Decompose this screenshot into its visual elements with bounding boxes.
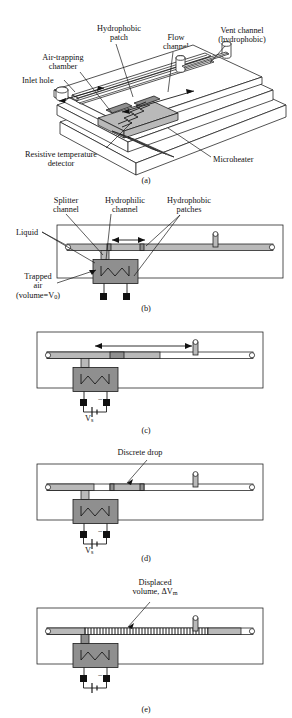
air-trapping-chamber-b: [93, 260, 138, 284]
panel-c: L + − Vs: [0, 320, 292, 442]
hydrophobic-patch-right-b: [140, 244, 144, 251]
electrode-pad-right-b: [123, 293, 130, 300]
device-frame-d: [37, 464, 263, 520]
panel-d-drawing: [0, 442, 292, 572]
vent-post-top-d: [193, 472, 198, 477]
channel-end-left-d: [45, 485, 50, 490]
channel-end-right-e: [249, 629, 254, 634]
electrode-pad-left-b: [100, 293, 107, 300]
device-frame-e: [37, 608, 263, 664]
panel-b: Splitter channel Hydrophilic channel Hyd…: [0, 190, 292, 320]
splitter-channel-b: [101, 251, 109, 260]
panel-e: Displaced volume, ΔVm + −: [0, 572, 292, 718]
vent-post-top-e: [193, 616, 198, 621]
air-trapping-chamber-e: [73, 644, 118, 668]
discrete-drop-d: [110, 484, 144, 491]
panel-a-drawing: [0, 0, 292, 190]
liquid-column-d: [47, 484, 94, 491]
splitter-channel-c: [81, 359, 89, 368]
channel-end-right-c: [249, 353, 254, 358]
splitter-channel-d: [81, 491, 89, 500]
panel-b-drawing: [0, 190, 292, 320]
caption-panel-b: (b): [0, 304, 292, 313]
channel-end-left-e: [45, 629, 50, 634]
channel-end-right-d: [249, 485, 254, 490]
electrode-pad-left-e: [80, 675, 87, 682]
meniscus-patch-c: [110, 352, 124, 359]
electrode-pad-left-d: [80, 531, 87, 538]
liquid-column-c: [47, 352, 160, 359]
device-frame-c: [37, 332, 263, 388]
electrode-pad-left-c: [80, 399, 87, 406]
electrode-pad-right-c: [103, 399, 110, 406]
inlet-hole-top: [56, 87, 68, 93]
panel-e-drawing: [0, 572, 292, 718]
vent-post-top-b: [213, 232, 218, 237]
electrode-pad-right-d: [103, 531, 110, 538]
caption-panel-e: (e): [0, 705, 292, 714]
electrode-pad-right-e: [103, 675, 110, 682]
channel-end-left-c: [45, 353, 50, 358]
drop-edge-right-d: [140, 484, 144, 491]
vent-post-right-top: [222, 42, 231, 47]
air-trapping-chamber-d: [73, 500, 118, 524]
displaced-volume-e: [85, 628, 208, 635]
liquid-column-e: [47, 628, 85, 635]
vent-post-left-top: [176, 56, 185, 61]
splitter-channel-e: [81, 635, 89, 644]
panel-a: Hydrophobic patch Flow channel Vent chan…: [0, 0, 292, 190]
air-trapping-chamber-c: [73, 368, 118, 392]
vent-post-top-c: [193, 340, 198, 345]
drop-edge-left-d: [110, 484, 114, 491]
caption-panel-d: (d): [0, 554, 292, 563]
liquid-pushed-e: [208, 628, 241, 635]
panel-d: Discrete drop + − Vs: [0, 442, 292, 572]
panel-c-drawing: [0, 320, 292, 442]
caption-panel-a: (a): [0, 176, 292, 185]
caption-panel-c: (c): [0, 426, 292, 435]
channel-end-right-b: [269, 245, 274, 250]
